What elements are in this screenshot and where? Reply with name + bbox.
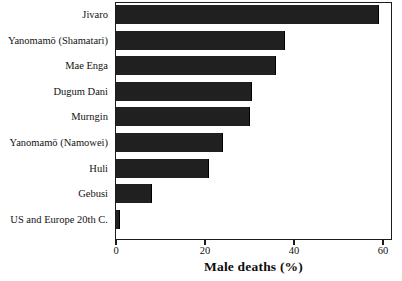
bar	[116, 31, 285, 50]
x-tick-label: 20	[185, 245, 225, 256]
x-tick-label: 60	[363, 245, 402, 256]
category-label: Gebusi	[78, 184, 108, 203]
chart-figure: JivaroYanomamö (Shamatari)Mae EngaDugum …	[0, 0, 402, 281]
bar	[116, 56, 276, 75]
category-label: Murngin	[71, 107, 108, 126]
bar	[116, 133, 223, 152]
x-axis-title: Male deaths (%)	[115, 259, 392, 275]
category-label: Mae Enga	[65, 56, 108, 75]
category-label: Yanomamö (Shamatari)	[8, 31, 108, 50]
category-label: Jivaro	[82, 5, 108, 24]
bar	[116, 82, 252, 101]
category-label: Yanomamö (Namowei)	[10, 133, 108, 152]
x-tick-label: 40	[274, 245, 314, 256]
category-label: US and Europe 20th C.	[10, 210, 108, 229]
bar	[116, 210, 120, 229]
x-tick-label: 0	[96, 245, 136, 256]
bar	[116, 184, 152, 203]
bar	[116, 159, 209, 178]
bars-layer	[116, 2, 392, 240]
y-axis-category-labels: JivaroYanomamö (Shamatari)Mae EngaDugum …	[0, 2, 112, 240]
x-axis-ticks: 0204060	[0, 240, 402, 260]
bar	[116, 5, 379, 24]
bar	[116, 107, 250, 126]
category-label: Huli	[89, 159, 108, 178]
category-label: Dugum Dani	[53, 82, 108, 101]
